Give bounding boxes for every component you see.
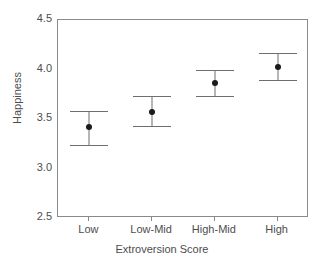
x-tick-mark [88,217,89,221]
errorbar-cap-upper [196,70,234,71]
errorbar-cap-lower [196,96,234,97]
errorbar-cap-lower [259,80,297,81]
y-tick-label: 3.5 [24,111,52,123]
chart-figure: Happiness 4.54.03.53.02.5 LowLow-MidHigh… [0,0,324,270]
x-axis-title: Extroversion Score [0,243,324,255]
x-tick-mark [151,217,152,221]
x-tick-label: High [265,223,288,235]
data-point [212,80,218,86]
x-tick-mark [214,217,215,221]
data-point [275,64,281,70]
errorbar-cap-upper [259,53,297,54]
x-tick-label: Low [78,223,98,235]
y-tick-label: 4.0 [24,62,52,74]
y-tick-label: 2.5 [24,210,52,222]
errorbar-cap-upper [133,96,171,97]
x-tick-mark [277,217,278,221]
y-axis-title: Happiness [11,53,23,143]
data-point [149,109,155,115]
errorbar-cap-lower [133,126,171,127]
errorbar-cap-lower [70,145,108,146]
plot-area [57,19,308,217]
y-tick-label: 3.0 [24,161,52,173]
x-tick-label: Low-Mid [130,223,172,235]
x-tick-label: High-Mid [192,223,236,235]
errorbar-cap-upper [70,111,108,112]
data-point [86,124,92,130]
y-tick-label: 4.5 [24,12,52,24]
